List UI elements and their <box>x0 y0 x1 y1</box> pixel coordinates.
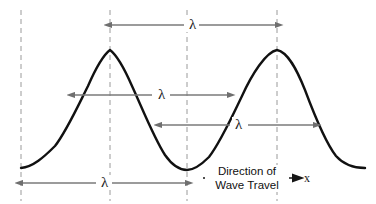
direction-of-travel-caption: Direction of Wave Travel <box>205 165 289 192</box>
wavelength-label-lower-mid: λ <box>232 117 245 132</box>
x-axis-label: x <box>304 172 310 184</box>
wavelength-label-top: λ <box>186 17 199 32</box>
direction-caption-line-1: Direction of <box>205 165 289 179</box>
wave-diagram: λ λ λ λ x Direction of Wave Travel <box>0 0 376 204</box>
wave-curve <box>21 50 365 170</box>
wavelength-label-bottom: λ <box>98 175 111 190</box>
wavelength-label-upper-mid: λ <box>155 87 168 102</box>
direction-caption-line-2: Wave Travel <box>205 179 289 193</box>
